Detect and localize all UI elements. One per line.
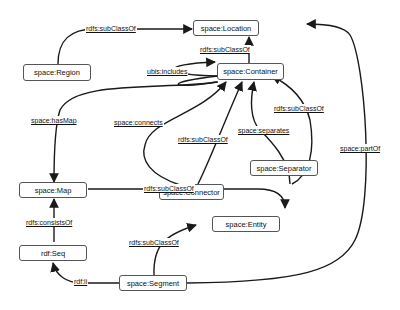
node-region[interactable]: space:Region bbox=[23, 64, 91, 81]
edge-label-container-location: rdfs:subClassOf bbox=[199, 45, 251, 54]
edge-container-map bbox=[54, 82, 218, 182]
ontology-diagram: space:Location space:Region space:Contai… bbox=[0, 0, 400, 310]
node-entity[interactable]: space:Entity bbox=[212, 216, 280, 232]
edge-label-connects: space:connects bbox=[113, 118, 164, 127]
edge-label-partof: space:partOf bbox=[339, 144, 381, 153]
edge-label-region-location: rdfs:subClassOf bbox=[85, 24, 137, 33]
edge-label-segment-entity: rdfs:subClassOf bbox=[128, 238, 180, 247]
node-map[interactable]: space:Map bbox=[19, 182, 87, 198]
edge-segment-entity bbox=[154, 225, 196, 275]
edge-region-location bbox=[58, 29, 192, 64]
edge-label-separates: space:separates bbox=[237, 126, 290, 135]
edge-label-consistsof: rdfs:consistsOf bbox=[25, 218, 73, 227]
edge-label-li: rdf:li bbox=[73, 277, 88, 286]
edge-connector-connects bbox=[144, 82, 226, 185]
edge-label-connector-subclass: rdfs:subClassOf bbox=[177, 135, 229, 144]
edge-label-map-entity: rdfs:subClassOf bbox=[143, 184, 195, 193]
edge-connector-subclass bbox=[198, 82, 242, 184]
node-segment[interactable]: space:Segment bbox=[119, 275, 187, 291]
node-location[interactable]: space:Location bbox=[193, 20, 259, 36]
edge-label-includes: ubis:includes bbox=[146, 67, 188, 76]
node-separator[interactable]: space:Separator bbox=[250, 160, 318, 176]
node-seq[interactable]: rdf:Seq bbox=[19, 245, 87, 261]
node-container[interactable]: space:Container bbox=[217, 63, 284, 80]
edge-label-separator-subclass: rdfs:subClassOf bbox=[273, 104, 325, 113]
edge-label-hasmap: space:hasMap bbox=[30, 116, 78, 125]
